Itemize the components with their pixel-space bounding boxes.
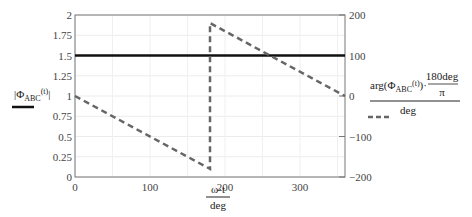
svg-text:200: 200 xyxy=(349,9,366,21)
svg-text:1.25: 1.25 xyxy=(53,70,73,82)
svg-text:arg(ΦABC(t))·: arg(ΦABC(t))· xyxy=(370,79,427,94)
y-axis-left-label: |ΦABC(t)| xyxy=(12,87,50,107)
svg-text:180deg: 180deg xyxy=(426,70,459,82)
svg-text:1.5: 1.5 xyxy=(58,50,72,62)
chart: 00.250.50.7511.251.51.752−200−1000100200… xyxy=(0,0,472,217)
svg-text:0.75: 0.75 xyxy=(53,110,73,122)
svg-text:0: 0 xyxy=(349,90,355,102)
svg-text:1: 1 xyxy=(67,90,73,102)
svg-text:π: π xyxy=(439,86,445,98)
svg-text:0.25: 0.25 xyxy=(53,151,73,163)
svg-text:100: 100 xyxy=(349,50,366,62)
svg-text:deg: deg xyxy=(400,104,416,116)
svg-text:300: 300 xyxy=(292,181,309,193)
svg-text:2: 2 xyxy=(67,9,73,21)
svg-text:0: 0 xyxy=(72,181,78,193)
svg-text:100: 100 xyxy=(142,181,159,193)
svg-text:|ΦABC(t)|: |ΦABC(t)| xyxy=(14,87,50,103)
x-axis-ticks: 0100200300 xyxy=(72,181,309,193)
svg-text:−100: −100 xyxy=(349,131,372,143)
y-axis-right-label: arg(ΦABC(t))·180degπdeg xyxy=(368,70,460,117)
svg-text:−200: −200 xyxy=(349,171,372,183)
svg-text:1.75: 1.75 xyxy=(53,29,73,41)
svg-text:deg: deg xyxy=(210,199,226,211)
y-axis-left-ticks: 00.250.50.7511.251.51.752 xyxy=(53,9,73,183)
svg-text:0.5: 0.5 xyxy=(58,131,72,143)
svg-text:ω·t: ω·t xyxy=(211,183,225,195)
